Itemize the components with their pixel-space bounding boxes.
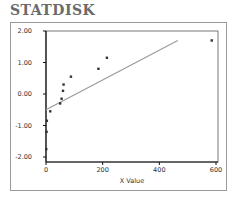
x-tick-label: 600 xyxy=(210,166,222,174)
data-point xyxy=(59,102,61,104)
data-point xyxy=(60,98,62,100)
scatter-plot: 2.001.000.00-1.00-2.000200400600X Value xyxy=(0,0,239,201)
data-point xyxy=(45,148,47,150)
y-tick-label: 1.00 xyxy=(18,59,32,67)
data-point xyxy=(45,131,47,133)
x-tick-label: 200 xyxy=(96,166,108,174)
data-point xyxy=(106,57,108,59)
regression-line xyxy=(46,40,178,109)
data-point xyxy=(49,110,51,112)
y-tick-label: 0.00 xyxy=(18,90,32,98)
data-point xyxy=(46,120,48,122)
data-point xyxy=(62,90,64,92)
x-tick-label: 0 xyxy=(44,166,48,174)
data-point xyxy=(97,68,99,70)
x-tick-label: 400 xyxy=(153,166,165,174)
y-tick-label: -2.00 xyxy=(15,153,32,161)
y-tick-label: 2.00 xyxy=(18,27,32,35)
data-point xyxy=(211,39,213,41)
y-tick-label: -1.00 xyxy=(15,122,32,130)
data-point xyxy=(62,83,64,85)
x-axis-label: X Value xyxy=(120,177,144,185)
data-point xyxy=(70,75,72,77)
